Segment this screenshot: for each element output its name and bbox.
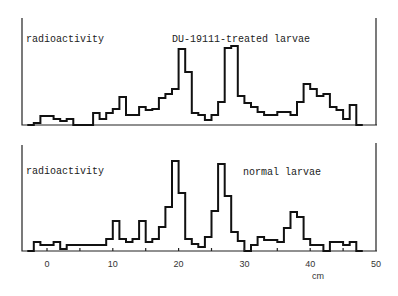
bottom-axes bbox=[22, 145, 377, 251]
bottom-ylabel: radioactivity bbox=[26, 166, 104, 177]
x-tick-label: 50 bbox=[371, 259, 381, 269]
top-histogram-line bbox=[27, 46, 363, 125]
x-tick-label: 40 bbox=[305, 259, 315, 269]
chart-figure: radioactivity DU-19111-treated larvae ra… bbox=[0, 0, 398, 296]
top-title: DU-19111-treated larvae bbox=[172, 34, 310, 45]
top-ylabel: radioactivity bbox=[26, 34, 104, 45]
x-axis-unit-label: cm bbox=[312, 271, 324, 281]
top-panel: radioactivity DU-19111-treated larvae bbox=[22, 18, 377, 125]
bottom-title: normal larvae bbox=[243, 167, 321, 178]
x-tick-label: 30 bbox=[239, 259, 249, 269]
x-tick-label: 0 bbox=[44, 259, 49, 269]
x-tick-label: 10 bbox=[108, 259, 118, 269]
bottom-panel: radioactivity normal larvae 01020304050 … bbox=[22, 143, 381, 281]
x-tick-label: 20 bbox=[174, 259, 184, 269]
